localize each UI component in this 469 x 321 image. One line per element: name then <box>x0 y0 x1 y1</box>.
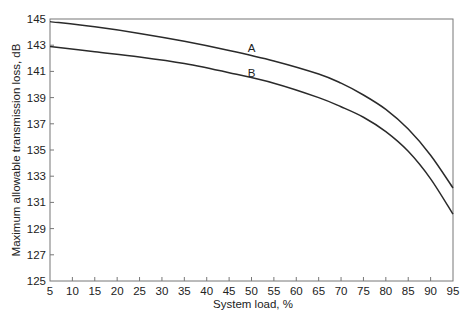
x-tick-label: 5 <box>47 285 53 297</box>
y-tick-label: 127 <box>27 249 46 261</box>
x-tick-label: 10 <box>66 285 79 297</box>
curve-label-a: A <box>248 42 256 54</box>
x-axis: 5101520253035404550556065707580859095 <box>47 277 460 297</box>
y-tick-label: 143 <box>27 39 46 51</box>
y-tick-label: 125 <box>27 275 46 287</box>
x-tick-label: 45 <box>223 285 236 297</box>
x-axis-title: System load, % <box>213 298 293 310</box>
y-axis-title: Maximum allowable transmission loss, dB <box>10 43 22 256</box>
y-tick-label: 139 <box>27 92 46 104</box>
y-tick-label: 137 <box>27 118 46 130</box>
y-tick-label: 145 <box>27 13 46 25</box>
x-tick-label: 25 <box>133 285 146 297</box>
x-tick-label: 40 <box>200 285 213 297</box>
y-tick-label: 133 <box>27 170 46 182</box>
x-tick-label: 80 <box>379 285 392 297</box>
x-tick-label: 55 <box>267 285 280 297</box>
x-tick-label: 30 <box>156 285 169 297</box>
series-labels: AB <box>248 42 256 79</box>
line-chart: 125127129131133135137139141143145 510152… <box>0 0 469 321</box>
y-tick-label: 135 <box>27 144 46 156</box>
x-tick-label: 75 <box>357 285 370 297</box>
y-tick-label: 141 <box>27 65 46 77</box>
y-tick-label: 129 <box>27 223 46 235</box>
x-tick-label: 70 <box>335 285 348 297</box>
y-tick-label: 131 <box>27 196 46 208</box>
curve-label-b: B <box>248 67 256 79</box>
x-tick-label: 20 <box>111 285 124 297</box>
x-tick-label: 50 <box>245 285 258 297</box>
x-tick-label: 85 <box>402 285 415 297</box>
plot-frame <box>50 19 453 281</box>
x-tick-label: 95 <box>447 285 460 297</box>
x-tick-label: 15 <box>88 285 101 297</box>
x-tick-label: 35 <box>178 285 191 297</box>
plot-area-border <box>50 19 453 281</box>
x-tick-label: 60 <box>290 285 303 297</box>
x-tick-label: 65 <box>312 285 325 297</box>
x-tick-label: 90 <box>424 285 437 297</box>
